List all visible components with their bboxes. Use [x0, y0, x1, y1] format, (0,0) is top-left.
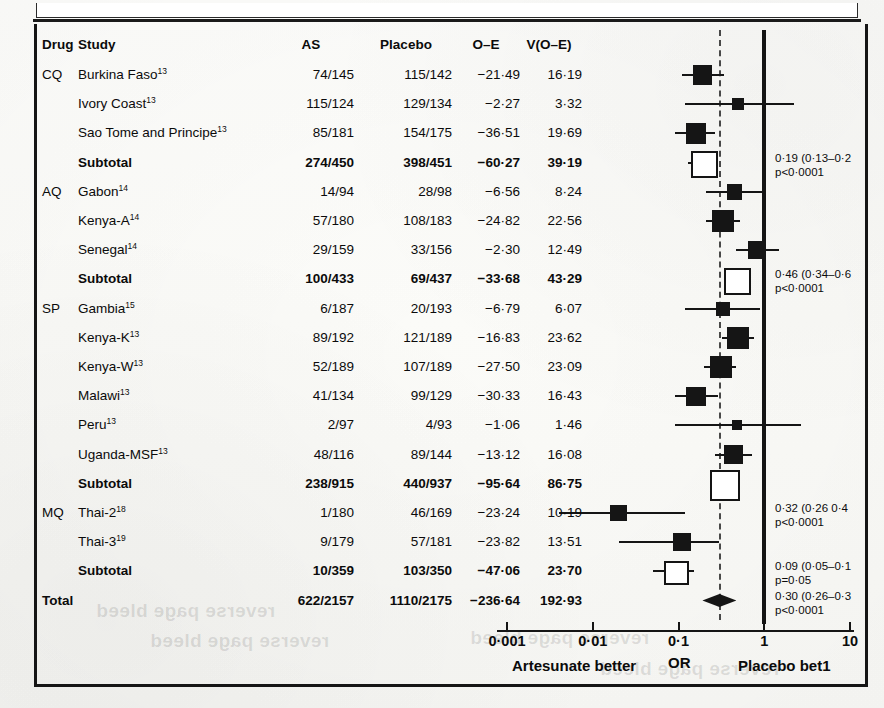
- cell-o-minus-e: −23·82: [458, 527, 520, 557]
- cell-v-o-minus-e: 192·93: [524, 586, 582, 616]
- cell-as: 85/181: [268, 118, 354, 148]
- cell-placebo: 57/181: [360, 527, 452, 557]
- table-row: Peru132/974/93−1·061·46: [0, 410, 884, 440]
- table-row: Subtotal238/915440/937−95·6486·75: [0, 469, 884, 499]
- column-header-oe: O–E: [452, 30, 520, 60]
- cell-o-minus-e: −47·06: [458, 556, 520, 586]
- table-row: Sao Tome and Principe1385/181154/175−36·…: [0, 118, 884, 148]
- row-study-label: Thai-319: [78, 527, 126, 557]
- row-subtotal-label: Subtotal: [78, 469, 132, 499]
- axis-tick-label: 1: [760, 633, 768, 649]
- axis-label-center: OR: [668, 654, 691, 671]
- axis-tick: [849, 622, 851, 631]
- row-study-label: Malawi13: [78, 381, 129, 411]
- cell-o-minus-e: −236·64: [458, 586, 520, 616]
- cell-v-o-minus-e: 16·19: [524, 60, 582, 90]
- row-study-label: Thai-218: [78, 498, 126, 528]
- cell-o-minus-e: −24·82: [458, 206, 520, 236]
- row-subtotal-label: Subtotal: [78, 556, 132, 586]
- table-row: Uganda-MSF1348/11689/144−13·1216·08: [0, 440, 884, 470]
- table-row: Thai-3199/17957/181−23·8213·51: [0, 527, 884, 557]
- table-row: Subtotal100/43369/437−33·6843·29: [0, 264, 884, 294]
- cell-as: 115/124: [268, 89, 354, 119]
- table-row: CQBurkina Faso1374/145115/142−21·4916·19: [0, 60, 884, 90]
- cell-v-o-minus-e: 39·19: [524, 148, 582, 178]
- upper-figure-box-edge: [36, 3, 858, 18]
- table-row: Subtotal274/450398/451−60·2739·19: [0, 148, 884, 178]
- row-subtotal-label: Subtotal: [78, 148, 132, 178]
- row-drug-label: CQ: [42, 60, 62, 90]
- cell-placebo: 154/175: [360, 118, 452, 148]
- cell-v-o-minus-e: 13·51: [524, 527, 582, 557]
- cell-v-o-minus-e: 6·07: [524, 294, 582, 324]
- row-drug-label: SP: [42, 294, 60, 324]
- cell-placebo: 89/144: [360, 440, 452, 470]
- row-drug-label: MQ: [42, 498, 64, 528]
- table-row: Kenya-K1389/192121/189−16·8323·62: [0, 323, 884, 353]
- column-header-study: Study: [78, 30, 116, 60]
- axis-label-left: Artesunate better: [512, 657, 636, 674]
- axis-tick-label: 0·01: [578, 633, 607, 649]
- cell-v-o-minus-e: 1·46: [524, 410, 582, 440]
- cell-o-minus-e: −6·56: [458, 177, 520, 207]
- cell-o-minus-e: −2·27: [458, 89, 520, 119]
- cell-o-minus-e: −36·51: [458, 118, 520, 148]
- cell-placebo: 69/437: [360, 264, 452, 294]
- row-study-label: Kenya-W13: [78, 352, 143, 382]
- cell-placebo: 4/93: [360, 410, 452, 440]
- cell-as: 9/179: [268, 527, 354, 557]
- table-header-row: DrugStudyASPlaceboO–EV(O–E): [0, 30, 884, 60]
- cell-as: 1/180: [268, 498, 354, 528]
- cell-placebo: 103/350: [360, 556, 452, 586]
- cell-o-minus-e: −27·50: [458, 352, 520, 382]
- cell-o-minus-e: −2·30: [458, 235, 520, 265]
- cell-v-o-minus-e: 10·19: [524, 498, 582, 528]
- row-study-label: Uganda-MSF13: [78, 440, 168, 470]
- row-study-label: Peru13: [78, 410, 116, 440]
- row-study-label: Gabon14: [78, 177, 128, 207]
- row-study-label: Burkina Faso13: [78, 60, 167, 90]
- column-header-drug: Drug: [42, 30, 74, 60]
- cell-as: 100/433: [268, 264, 354, 294]
- cell-o-minus-e: −13·12: [458, 440, 520, 470]
- axis-tick: [506, 622, 508, 631]
- cell-o-minus-e: −16·83: [458, 323, 520, 353]
- cell-v-o-minus-e: 23·09: [524, 352, 582, 382]
- axis-tick-label: 10: [842, 633, 858, 649]
- cell-as: 6/187: [268, 294, 354, 324]
- cell-v-o-minus-e: 3·32: [524, 89, 582, 119]
- cell-placebo: 121/189: [360, 323, 452, 353]
- cell-v-o-minus-e: 16·08: [524, 440, 582, 470]
- cell-as: 622/2157: [268, 586, 354, 616]
- column-header-as: AS: [268, 30, 354, 60]
- cell-placebo: 108/183: [360, 206, 452, 236]
- axis-tick-label: 0·001: [488, 633, 525, 649]
- row-study-label: Kenya-A14: [78, 206, 139, 236]
- cell-as: 2/97: [268, 410, 354, 440]
- table-row: MQThai-2181/18046/169−23·2410·19: [0, 498, 884, 528]
- cell-o-minus-e: −6·79: [458, 294, 520, 324]
- row-study-label: Ivory Coast13: [78, 89, 156, 119]
- cell-o-minus-e: −23·24: [458, 498, 520, 528]
- cell-o-minus-e: −21·49: [458, 60, 520, 90]
- table-row: Subtotal10/359103/350−47·0623·70: [0, 556, 884, 586]
- axis-label-right: Placebo bet1: [738, 657, 831, 674]
- table-row: Malawi1341/13499/129−30·3316·43: [0, 381, 884, 411]
- row-study-label: Senegal14: [78, 235, 137, 265]
- cell-as: 57/180: [268, 206, 354, 236]
- cell-o-minus-e: −95·64: [458, 469, 520, 499]
- cell-placebo: 398/451: [360, 148, 452, 178]
- table-row: Ivory Coast13115/124129/134−2·273·32: [0, 89, 884, 119]
- row-drug-label: AQ: [42, 177, 62, 207]
- row-study-label: Gambia15: [78, 294, 135, 324]
- axis-tick-label: 0·1: [668, 633, 689, 649]
- cell-v-o-minus-e: 86·75: [524, 469, 582, 499]
- cell-as: 74/145: [268, 60, 354, 90]
- cell-o-minus-e: −30·33: [458, 381, 520, 411]
- table-row: Kenya-A1457/180108/183−24·8222·56: [0, 206, 884, 236]
- cell-as: 238/915: [268, 469, 354, 499]
- cell-placebo: 33/156: [360, 235, 452, 265]
- cell-as: 14/94: [268, 177, 354, 207]
- row-total-label: Total: [42, 586, 73, 616]
- cell-placebo: 129/134: [360, 89, 452, 119]
